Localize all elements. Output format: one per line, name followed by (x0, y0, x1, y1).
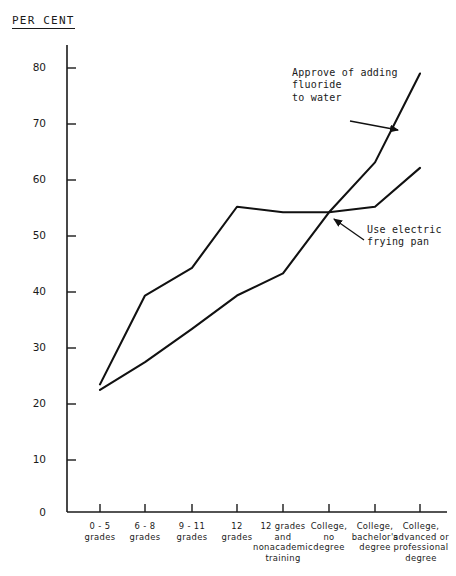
fluoride-leader-arrow (350, 121, 398, 130)
chart-page: PER CENT 80 70 60 50 40 30 20 10 0 0 - 5… (0, 0, 456, 576)
series-line-fluoride (100, 74, 420, 385)
frying-pan-leader-arrow (334, 219, 364, 240)
series-line-frying-pan (100, 168, 420, 390)
x-tick-marks (100, 504, 420, 512)
plot-area (0, 0, 456, 576)
y-tick-marks (67, 68, 76, 460)
